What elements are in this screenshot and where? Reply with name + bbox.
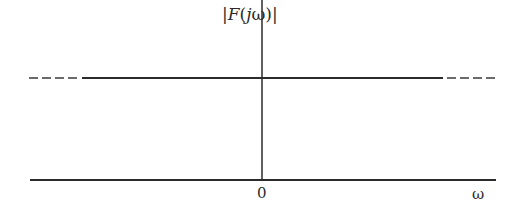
y-axis-label: |F(jω)| <box>222 4 278 24</box>
origin-tick-label: 0 <box>257 184 267 202</box>
x-axis-label: ω <box>472 185 484 203</box>
